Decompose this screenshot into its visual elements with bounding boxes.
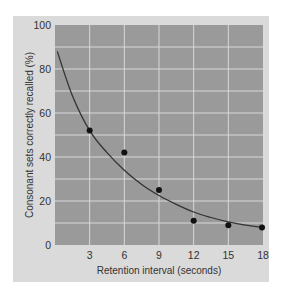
y-tick-label: 80 bbox=[39, 63, 51, 75]
data-point bbox=[156, 187, 162, 193]
y-axis-ticks: 020406080100 bbox=[33, 19, 51, 251]
x-tick-label: 12 bbox=[188, 249, 200, 261]
y-tick-label: 100 bbox=[33, 19, 51, 31]
x-axis-ticks: 369121518 bbox=[87, 249, 269, 261]
data-point bbox=[259, 224, 265, 230]
data-point bbox=[87, 128, 93, 134]
chart-svg: 020406080100 369121518 Retention interva… bbox=[0, 0, 290, 294]
x-axis-label: Retention interval (seconds) bbox=[97, 265, 222, 276]
data-point bbox=[191, 218, 197, 224]
x-tick-label: 3 bbox=[87, 249, 93, 261]
y-tick-label: 40 bbox=[39, 151, 51, 163]
x-tick-label: 9 bbox=[156, 249, 162, 261]
data-point bbox=[225, 222, 231, 228]
y-tick-label: 0 bbox=[45, 239, 51, 251]
y-axis-label: Consonant sets correctly recalled (%) bbox=[24, 52, 35, 218]
x-tick-label: 18 bbox=[257, 249, 269, 261]
y-tick-label: 60 bbox=[39, 107, 51, 119]
data-point bbox=[121, 150, 127, 156]
y-tick-label: 20 bbox=[39, 195, 51, 207]
x-tick-label: 6 bbox=[121, 249, 127, 261]
x-tick-label: 15 bbox=[222, 249, 234, 261]
